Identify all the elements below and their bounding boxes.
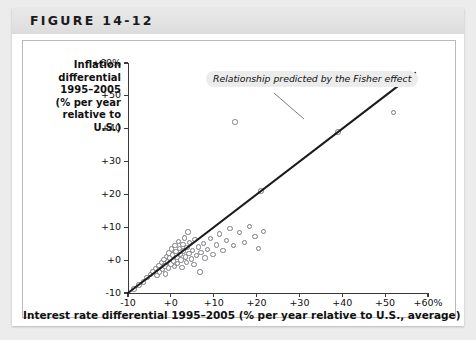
x-tick-label: +60%	[405, 297, 451, 308]
y-tick-label: +10	[61, 221, 121, 232]
x-tick-label: +20	[234, 297, 280, 308]
y-axis-title-line-5: relative to	[35, 109, 121, 122]
y-tick-label: +20	[61, 188, 121, 199]
plot-area: -10+0+10+20+30+40+50+60%-10+0+10+20+30+4…	[128, 63, 428, 293]
x-tick-label: -10	[105, 297, 151, 308]
annotation-leader-line	[128, 63, 428, 293]
figure-number-title: FIGURE 14-12	[30, 13, 154, 28]
x-tick-label: +50	[362, 297, 408, 308]
x-tick-label: +10	[191, 297, 237, 308]
y-tick-label: +50	[61, 89, 121, 100]
y-tick-label: +60%	[61, 57, 121, 68]
x-tick-label: +30	[276, 297, 322, 308]
y-axis-title-line-2: differential	[35, 72, 121, 85]
figure-card: FIGURE 14-12 Inflation differential 1995…	[12, 8, 464, 326]
x-axis-line	[128, 293, 428, 294]
y-tick-label: +30	[61, 155, 121, 166]
figure-root: FIGURE 14-12 Inflation differential 1995…	[0, 0, 476, 340]
x-tick-label: +40	[319, 297, 365, 308]
y-tick-label: +0	[61, 254, 121, 265]
chart-panel: Inflation differential 1995–2005 (% per …	[22, 40, 456, 318]
x-axis-title: Interest rate differential 1995–2005 (% …	[23, 309, 455, 321]
y-tick-label: +40	[61, 122, 121, 133]
fisher-effect-annotation: Relationship predicted by the Fisher eff…	[206, 71, 418, 87]
y-tick-label: -10	[61, 287, 121, 298]
x-tick-label: +0	[148, 297, 194, 308]
